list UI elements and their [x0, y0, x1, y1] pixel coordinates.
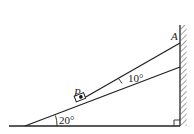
point-p-label: P	[73, 86, 81, 98]
incline-angle-label: 20°	[59, 114, 74, 126]
rope-angle-label: 10°	[128, 72, 143, 84]
incline-line	[25, 67, 180, 126]
rope-angle-arc	[119, 79, 123, 84]
rope-line	[84, 43, 180, 98]
incline-diagram: 20° 10° P A	[0, 0, 194, 134]
wall-hatch	[181, 25, 187, 126]
incline-angle-arc	[56, 116, 58, 127]
right-angle-marker	[174, 120, 180, 126]
point-a-label: A	[170, 30, 178, 42]
